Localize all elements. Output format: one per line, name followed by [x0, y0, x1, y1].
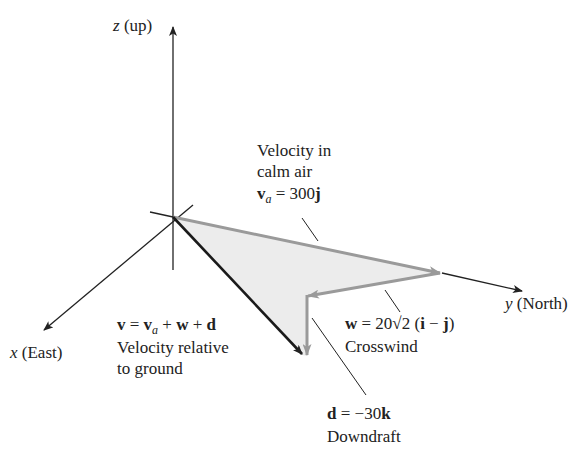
y-axis-label: y (North)	[505, 294, 568, 314]
v-equation: v = va + w + d	[117, 315, 229, 335]
vector-diagram: z (up) Velocity in calm air va = 300j y …	[0, 0, 581, 457]
va-equation: va = 300j	[257, 184, 331, 204]
w-caption: w = 20√2 (i − j) Crosswind	[345, 314, 454, 357]
y-axis-back	[150, 212, 173, 217]
x-axis-label: x (East)	[10, 343, 62, 363]
w-equation: w = 20√2 (i − j)	[345, 314, 454, 334]
d-equation: d = −30k	[327, 404, 401, 424]
v-caption: v = va + w + d Velocity relative to grou…	[117, 315, 229, 379]
y-axis	[442, 273, 522, 291]
va-caption: Velocity in calm air va = 300j	[257, 141, 331, 204]
d-caption: d = −30k Downdraft	[327, 404, 401, 447]
z-axis-label: z (up)	[113, 16, 152, 36]
diagram-canvas	[0, 0, 581, 457]
va-leader	[302, 218, 318, 241]
w-leader	[385, 290, 400, 312]
x-axis	[44, 205, 193, 330]
